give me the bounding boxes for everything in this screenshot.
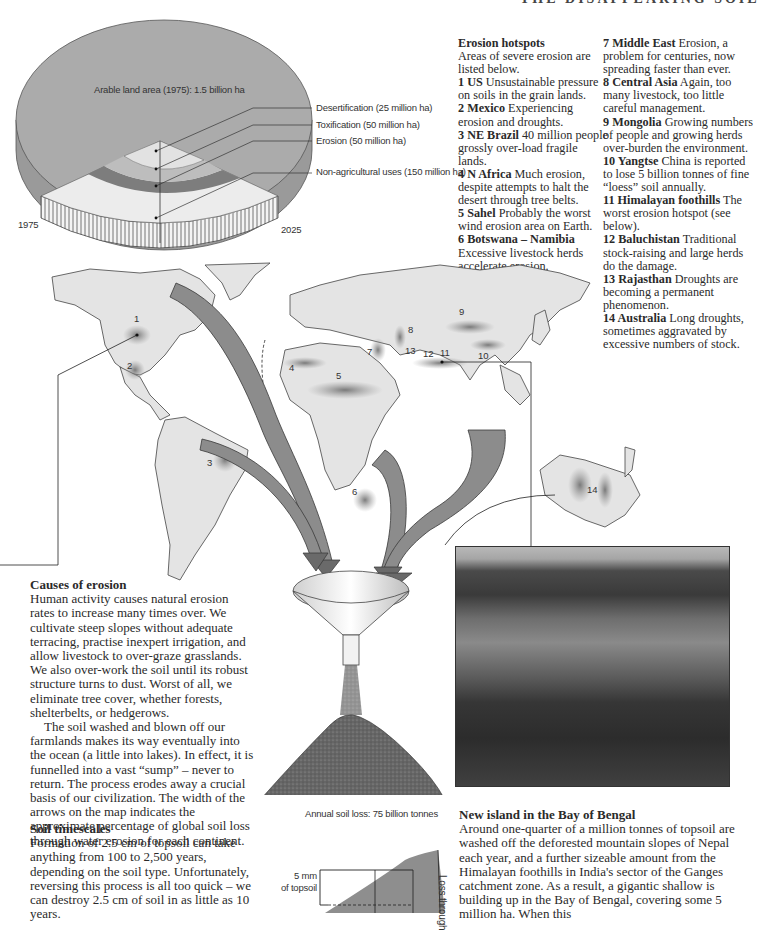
timescales-section: Soil timescales Formation of 2.5 cm of t… <box>30 822 255 921</box>
funnel-caption: Annual soil loss: 75 billion tonnes <box>305 808 438 819</box>
bengal-section: New island in the Bay of Bengal Around o… <box>459 808 749 922</box>
hotspot-item: 8 Central Asia Again, too many livestock… <box>603 76 757 115</box>
svg-text:7: 7 <box>367 346 372 357</box>
causes-para-1: Human activity causes natural erosion ra… <box>30 592 255 720</box>
svg-text:5: 5 <box>336 370 341 381</box>
hotspot-item: 4 N Africa Much erosion, despite attempt… <box>458 168 608 207</box>
svg-text:8: 8 <box>408 324 413 335</box>
bengal-text: Around one-quarter of a million tonnes o… <box>459 822 749 921</box>
timescales-title: Soil timescales <box>30 822 255 836</box>
legend-toxification: Toxification (50 million ha) <box>316 119 420 130</box>
year-label-1975: 1975 <box>18 219 38 230</box>
svg-text:12: 12 <box>423 348 434 359</box>
hotspot-item: 1 US Unsustainable pressure on soils in … <box>458 76 608 102</box>
svg-text:10: 10 <box>478 350 489 361</box>
loss-through-label: Loss through <box>437 875 448 930</box>
hotspot-item: 5 Sahel Probably the worst wind erosion … <box>458 207 608 233</box>
nepal-slopes-photo <box>455 546 730 787</box>
legend-desertification: Desertification (25 million ha) <box>316 102 432 113</box>
legend-non-agricultural: Non-agricultural uses (150 million ha) <box>316 166 466 177</box>
svg-text:13: 13 <box>405 345 416 356</box>
svg-text:3: 3 <box>207 457 212 468</box>
hotspots-intro: Areas of severe erosion are listed below… <box>458 50 608 76</box>
svg-text:1: 1 <box>134 313 139 324</box>
hotspot-item: 7 Middle East Erosion, a problem for cen… <box>603 37 757 76</box>
svg-text:9: 9 <box>459 306 464 317</box>
hotspot-item: 3 NE Brazil 40 million people grossly ov… <box>458 129 608 168</box>
causes-section: Causes of erosion Human activity causes … <box>30 578 255 848</box>
causes-title: Causes of erosion <box>30 578 255 592</box>
svg-text:14: 14 <box>587 484 598 495</box>
year-label-2025: 2025 <box>281 224 301 235</box>
hotspots-column-1: Erosion hotspots Areas of severe erosion… <box>458 37 608 273</box>
topsoil-label-2: of topsoil <box>273 882 317 893</box>
svg-text:6: 6 <box>352 486 357 497</box>
hotspot-item: 11 Himalayan foothills The worst erosion… <box>603 194 757 233</box>
timescales-text: Formation of 2.5 cm of topsoil can take … <box>30 836 255 921</box>
bengal-title: New island in the Bay of Bengal <box>459 808 749 822</box>
legend-erosion: Erosion (50 million ha) <box>316 135 406 146</box>
svg-text:11: 11 <box>440 347 450 358</box>
svg-text:4: 4 <box>289 362 294 373</box>
land-area-pie-chart <box>0 0 460 262</box>
topsoil-label: 5 mm <box>291 870 317 881</box>
hotspot-item: 10 Yangtse China is reported to lose 5 b… <box>603 155 757 194</box>
hotspot-item: 2 Mexico Experiencing erosion and drough… <box>458 102 608 128</box>
page-header: THE DISAPPEARING SOIL <box>520 0 757 4</box>
svg-text:2: 2 <box>127 360 132 371</box>
hotspot-item: 9 Mongolia Growing numbers of people and… <box>603 116 757 155</box>
chart-title: Arable land area (1975): 1.5 billion ha <box>94 84 245 95</box>
